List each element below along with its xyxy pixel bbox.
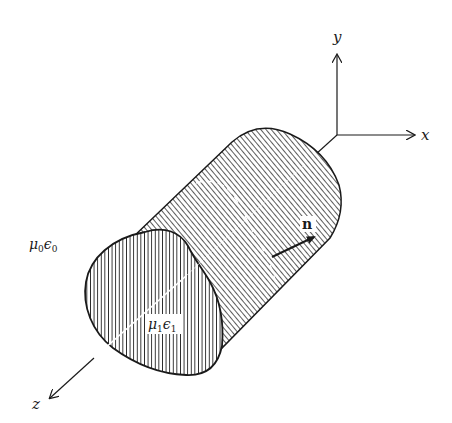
outer-medium-label: μ0ϵ0 — [29, 236, 58, 254]
z-axis-label: z — [31, 395, 40, 413]
axes — [305, 55, 414, 164]
inner-eps-sub: 1 — [171, 324, 177, 334]
inner-eps: ϵ — [163, 316, 171, 332]
y-axis-label: y — [332, 28, 342, 46]
cylinder-diagram: n μ1ϵ1 μ0ϵ0 y x z — [0, 0, 452, 423]
normal-vector-label: n — [302, 216, 312, 232]
inner-mu: μ — [148, 316, 157, 332]
x-axis-label: x — [421, 126, 430, 144]
outer-mu: μ — [29, 236, 38, 252]
outer-eps-sub: 0 — [52, 244, 58, 254]
outer-eps: ϵ — [44, 236, 52, 252]
z-axis — [50, 358, 94, 398]
